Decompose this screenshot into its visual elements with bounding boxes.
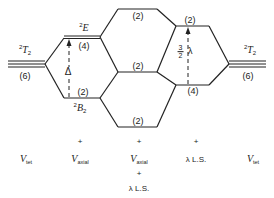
column-label-vtet-left: Vtet bbox=[20, 153, 32, 165]
column-label-lambda-ls: λ L.S. bbox=[186, 155, 206, 164]
lambda-arrowhead-icon bbox=[186, 27, 191, 34]
column-label-vaxial-ls: Vaxial bbox=[130, 153, 147, 165]
column-plus-2: + bbox=[137, 137, 142, 146]
b2-label: 2B2 bbox=[74, 102, 87, 114]
lambda-gap-label: 32 λ bbox=[178, 44, 193, 60]
right-t2-degeneracy: (6) bbox=[243, 72, 254, 81]
e-label: 2E bbox=[79, 22, 88, 33]
column-label-ls: λ L.S. bbox=[129, 184, 149, 193]
left-t2-label: 2T2 bbox=[19, 44, 31, 56]
right-bot-degeneracy: (4) bbox=[188, 87, 199, 96]
delta-label: Δ bbox=[65, 67, 72, 77]
right-top-degeneracy: (2) bbox=[185, 16, 196, 25]
b2-degeneracy: (2) bbox=[78, 88, 89, 97]
left-t2-degeneracy: (6) bbox=[20, 72, 31, 81]
split-top-degeneracy: (2) bbox=[133, 12, 144, 21]
column-plus-2b: + bbox=[137, 169, 142, 178]
right-t2-label: 2T2 bbox=[244, 44, 256, 56]
delta-arrowhead-icon bbox=[67, 39, 72, 46]
split-bot-degeneracy: (2) bbox=[133, 117, 144, 126]
column-plus-1: + bbox=[78, 137, 83, 146]
column-plus-3: + bbox=[194, 137, 199, 146]
e-degeneracy: (4) bbox=[79, 42, 90, 51]
column-label-vaxial: Vaxial bbox=[71, 153, 88, 165]
split-mid-degeneracy: (2) bbox=[133, 62, 144, 71]
column-label-vtet-right: Vtet bbox=[247, 153, 259, 165]
